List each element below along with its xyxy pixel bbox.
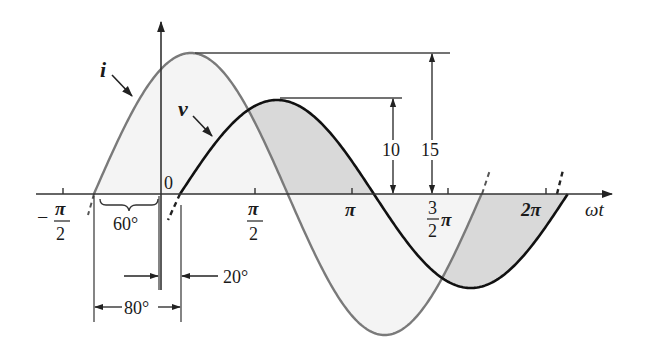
current-label: i bbox=[100, 57, 107, 82]
voltage-amplitude-label: 10 bbox=[382, 140, 400, 160]
current-amplitude-label: 15 bbox=[421, 140, 439, 160]
sixty-degree-brace bbox=[100, 199, 158, 211]
tick-label-three-pi-half-den: 2 bbox=[428, 221, 437, 241]
current-lead-angle-label: 60° bbox=[113, 214, 138, 234]
tick-label-three-pi-half-pi: π bbox=[441, 209, 452, 230]
voltage-dashed-extension-right bbox=[557, 170, 563, 194]
tick-label-neg-pi-half-den: 2 bbox=[56, 224, 65, 244]
current-dashed-extension-left bbox=[88, 194, 94, 215]
tick-label-three-pi-half-num: 3 bbox=[428, 198, 437, 218]
tick-label-neg-pi-half-num: π bbox=[55, 198, 66, 219]
tick-label-pi-half-den: 2 bbox=[249, 224, 258, 244]
waveform-diagram: − π 2 0 π 2 π 3 2 π 2π ωt i v 10 15 60° … bbox=[0, 0, 650, 351]
phase-difference-label: 80° bbox=[124, 298, 149, 318]
voltage-lag-angle-label: 20° bbox=[223, 267, 248, 287]
origin-label: 0 bbox=[164, 173, 173, 193]
current-pointer-arrow bbox=[112, 75, 132, 96]
tick-label-pi: π bbox=[345, 199, 356, 220]
voltage-dashed-extension-left bbox=[168, 194, 180, 220]
tick-label-neg-pi-half-sign: − bbox=[37, 206, 48, 228]
tick-label-two-pi: 2π bbox=[520, 199, 542, 220]
x-axis-label: ωt bbox=[585, 199, 604, 220]
current-dashed-extension-right bbox=[482, 170, 490, 194]
voltage-label: v bbox=[178, 96, 188, 121]
tick-label-pi-half-num: π bbox=[248, 198, 259, 219]
